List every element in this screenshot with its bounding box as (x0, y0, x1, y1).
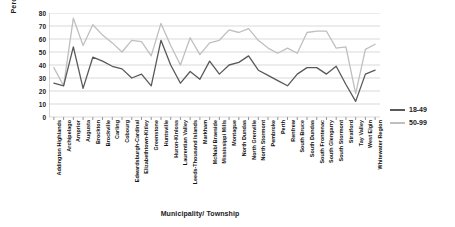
x-tick-label: West Elgin (367, 120, 373, 148)
x-tick-label: South Frontenac (319, 120, 325, 164)
x-axis-title: Municipality/ Township (0, 210, 400, 217)
x-tick-label: Huntsville (163, 120, 169, 146)
x-tick-label: Renfrew (290, 120, 296, 142)
x-tick-label: Brockton (95, 120, 101, 144)
x-tick-label: North Grenville (251, 120, 257, 160)
legend-label: 18-49 (409, 106, 427, 113)
x-tick-label: Cobourg (124, 120, 130, 143)
y-tick-label: 50 (26, 49, 46, 56)
y-tick-label: 10 (26, 101, 46, 108)
x-tick-label: Carling (114, 120, 120, 139)
legend-item[interactable]: 18-49 (390, 103, 455, 116)
x-tick-label: Elizabethtown-Kitley (143, 120, 149, 174)
x-tick-label: Archipelago (66, 120, 72, 152)
x-tick-label: Huron-Kinloss (173, 120, 179, 158)
x-tick-label: Perth (280, 120, 286, 134)
legend-swatch-icon (390, 122, 405, 124)
x-tick-label: Augusta (85, 120, 91, 142)
x-tick-label: Edwardsburgh-Cardinal (134, 120, 140, 182)
x-tick-label: McNab/ Braeside (212, 120, 218, 164)
x-tick-label: Tay Valley (358, 120, 364, 146)
x-axis-tick-labels: Addington HighlandsArchipelagoArnpriorAu… (49, 120, 380, 208)
legend-label: 50-99 (409, 119, 427, 126)
x-tick-label: Markham (202, 120, 208, 144)
legend-item[interactable]: 50-99 (390, 116, 455, 129)
line-chart: Percent 01020304050607080 Addington High… (0, 0, 455, 227)
x-tick-label: Arnprior (75, 120, 81, 142)
x-tick-label: North Dundas (241, 120, 247, 156)
x-tick-label: South Dundas (309, 120, 315, 157)
x-tick-label: Leeds-Thousand Islands (192, 120, 198, 184)
x-tick-label: Addington Highlands (56, 120, 62, 175)
series-line-50-99 (54, 18, 375, 93)
x-tick-label: Pembroke (270, 120, 276, 146)
plot-svg (49, 13, 380, 123)
x-tick-label: Mississippi Mills (221, 120, 227, 163)
y-tick-label: 0 (26, 114, 46, 121)
x-tick-label: Stratford (348, 120, 354, 143)
legend-swatch-icon (390, 109, 405, 111)
y-tick-label: 30 (26, 75, 46, 82)
y-tick-label: 80 (26, 10, 46, 17)
chart-legend: 18-4950-99 (390, 103, 455, 129)
x-tick-label: South Glengarry (328, 120, 334, 163)
x-tick-label: Montague (231, 120, 237, 146)
y-axis-tick-labels: 01020304050607080 (18, 0, 46, 227)
x-tick-label: Laurentian Valley (182, 120, 188, 165)
x-tick-label: South Stormont (338, 120, 344, 161)
y-tick-label: 40 (26, 62, 46, 69)
x-tick-label: Brockville (105, 120, 111, 146)
y-tick-label: 60 (26, 36, 46, 43)
plot-area (49, 13, 380, 117)
y-tick-label: 20 (26, 88, 46, 95)
y-axis-title: Percent (10, 0, 17, 40)
x-tick-label: Greenstone (153, 120, 159, 150)
x-tick-label: Whitewater Region (377, 120, 383, 169)
series-line-18-49 (54, 40, 375, 101)
x-tick-label: South Bruce (299, 120, 305, 153)
y-tick-label: 70 (26, 23, 46, 30)
x-tick-label: North Stormont (260, 120, 266, 161)
